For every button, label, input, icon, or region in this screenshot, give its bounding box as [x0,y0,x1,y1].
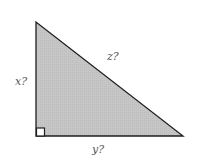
hypotenuse-label: z? [106,50,119,63]
horizontal-leg-label: y? [91,143,104,156]
right-angle-marker [37,128,45,136]
right-triangle-diagram: x? z? y? [0,0,198,165]
triangle-shape [36,22,183,136]
vertical-leg-label: x? [15,75,27,88]
